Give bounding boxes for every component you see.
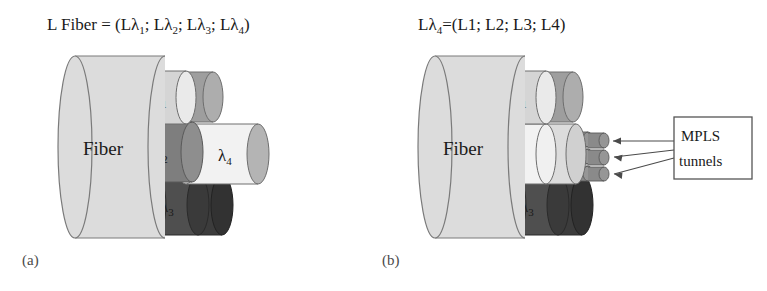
mpls-callout-box [674, 117, 752, 179]
panel-b-fiber-cylinder: Fiber [418, 56, 525, 238]
panel-b-fiber-label: Fiber [443, 138, 484, 159]
panel-a-letter: (a) [22, 252, 39, 269]
figure-canvas: L Fiber = (Lλ1; Lλ2; Lλ3; Lλ4) λ3 [0, 0, 767, 291]
panel-a-fiber-cylinder: Fiber [58, 56, 165, 238]
tunnel-cylinder [588, 133, 609, 148]
panel-a-fiber-label: Fiber [83, 138, 124, 159]
mpls-callout-line-1: MPLS [681, 128, 720, 144]
tunnel-cylinder [588, 150, 609, 165]
tunnel-cylinder [588, 167, 609, 181]
panel-b-letter: (b) [382, 252, 400, 269]
mpls-tunnels-callout[interactable]: MPLS tunnels [674, 117, 752, 179]
panel-a-equation: L Fiber = (Lλ1; Lλ2; Lλ3; Lλ4) [47, 15, 250, 36]
mpls-callout-line-2: tunnels [679, 153, 722, 169]
